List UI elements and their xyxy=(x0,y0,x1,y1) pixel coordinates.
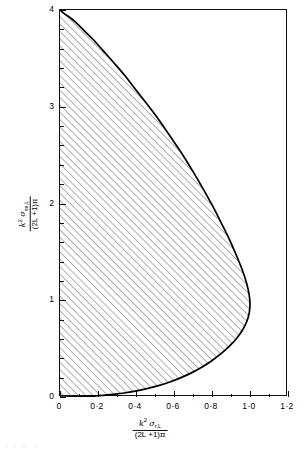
x-tick-label: 0·6 xyxy=(166,401,180,411)
y-title-subscript: se,L xyxy=(23,201,29,212)
y-title-k: k xyxy=(18,222,27,227)
y-tick-minor xyxy=(60,87,64,88)
y-axis-title: k2 σse,L (2L +1)π xyxy=(17,197,41,232)
x-title-pi: π xyxy=(160,430,165,439)
x-tick-label: 0·2 xyxy=(90,401,104,411)
x-tick-label: 0·8 xyxy=(204,401,218,411)
y-tick-label: 4 xyxy=(43,4,54,14)
x-title-denominator: (2L +1) xyxy=(135,430,160,439)
y-tick-minor xyxy=(60,223,64,224)
y-tick-major xyxy=(60,397,66,398)
y-title-exponent: 2 xyxy=(17,219,23,222)
y-tick-major xyxy=(60,300,66,301)
y-tick-minor xyxy=(60,184,64,185)
y-tick-minor xyxy=(60,339,64,340)
y-tick-label: 0 xyxy=(43,391,54,401)
y-title-pi: π xyxy=(30,199,39,204)
y-title-denominator: (2L +1) xyxy=(30,204,39,229)
y-tick-label: 2 xyxy=(43,198,54,208)
y-tick-minor xyxy=(60,29,64,30)
y-tick-minor xyxy=(60,358,64,359)
y-tick-major xyxy=(60,107,66,108)
plot-frame xyxy=(59,9,287,396)
x-tick-label: 0·4 xyxy=(128,401,142,411)
y-title-sigma: σ xyxy=(18,211,27,216)
y-axis-tick-marks xyxy=(60,10,286,395)
x-title-exponent: 2 xyxy=(144,417,147,423)
x-tick-label: 1·2 xyxy=(280,401,294,411)
x-tick-label: 0 xyxy=(56,401,61,411)
y-tick-minor xyxy=(60,262,64,263)
x-axis-title: k2 σr,L (2L +1)π xyxy=(133,417,168,441)
y-tick-minor xyxy=(60,145,64,146)
y-tick-minor xyxy=(60,68,64,69)
figure-container: 00·20·40·60·81·01·2 01234 k2 σr,L (2L +1… xyxy=(0,0,305,454)
x-tick-label: 1·0 xyxy=(242,401,256,411)
x-title-subscript: r,L xyxy=(155,423,161,429)
y-tick-minor xyxy=(60,165,64,166)
y-tick-major xyxy=(60,204,66,205)
scan-edge-artifact xyxy=(4,444,64,449)
y-tick-minor xyxy=(60,49,64,50)
y-tick-major xyxy=(60,10,66,11)
y-tick-minor xyxy=(60,126,64,127)
y-tick-minor xyxy=(60,281,64,282)
y-tick-minor xyxy=(60,320,64,321)
y-tick-label: 1 xyxy=(43,294,54,304)
y-tick-minor xyxy=(60,242,64,243)
y-tick-minor xyxy=(60,378,64,379)
x-tick-major xyxy=(288,391,289,397)
y-tick-label: 3 xyxy=(43,101,54,111)
